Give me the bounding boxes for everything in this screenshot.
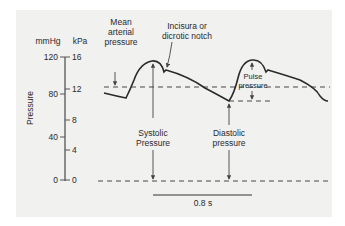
- unit-kpa: kPa: [73, 36, 88, 46]
- label-mean-arterial-2: arterial: [108, 27, 134, 37]
- tick-mmhg-80: 80: [49, 89, 59, 99]
- label-mean-arterial-3: pressure: [104, 37, 137, 47]
- tick-kpa-4: 4: [72, 145, 77, 155]
- pressure-waveform-diagram: mmHg kPa 120 80 40 0 16 12 8 4 0 Pressur…: [0, 0, 345, 226]
- tick-kpa-8: 8: [72, 115, 77, 125]
- label-incisura-2: dicrotic notch: [162, 31, 212, 41]
- label-pulse-2: pressure: [238, 81, 267, 90]
- unit-mmhg: mmHg: [35, 36, 60, 46]
- label-diastolic-2: pressure: [212, 138, 245, 148]
- label-mean-arterial-1: Mean: [110, 17, 132, 27]
- tick-kpa-0: 0: [72, 175, 77, 185]
- tick-mmhg-40: 40: [49, 132, 59, 142]
- label-pulse-1: Pulse: [244, 72, 263, 81]
- pressure-waveform: [104, 60, 328, 101]
- axis-label-pressure: Pressure: [25, 91, 35, 125]
- tick-mmhg-120: 120: [44, 52, 58, 62]
- pressure-axis: [60, 57, 70, 181]
- time-scale-label: 0.8 s: [194, 198, 212, 208]
- label-incisura-1: Incisura or: [167, 21, 207, 31]
- label-systolic-2: Pressure: [136, 138, 170, 148]
- tick-kpa-12: 12: [72, 84, 82, 94]
- label-systolic-1: Systolic: [138, 128, 168, 138]
- tick-kpa-16: 16: [72, 52, 82, 62]
- tick-mmhg-0: 0: [53, 175, 58, 185]
- incisura-arrow-icon: [167, 42, 172, 67]
- label-diastolic-1: Diastolic: [213, 128, 246, 138]
